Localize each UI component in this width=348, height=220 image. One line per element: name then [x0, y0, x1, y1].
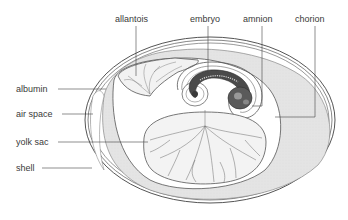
label-embryo: embryo — [190, 14, 220, 24]
label-albumin: albumin — [16, 84, 48, 94]
air-space — [91, 91, 104, 170]
label-air-space: air space — [16, 109, 53, 119]
label-allantois: allantois — [115, 14, 149, 24]
label-amnion: amnion — [243, 14, 273, 24]
label-chorion: chorion — [295, 14, 325, 24]
label-shell: shell — [16, 163, 35, 173]
egg-diagram: allantois embryo amnion chorion albumin … — [0, 0, 348, 220]
yolk-sac — [144, 110, 266, 184]
label-yolk-sac: yolk sac — [16, 137, 49, 147]
